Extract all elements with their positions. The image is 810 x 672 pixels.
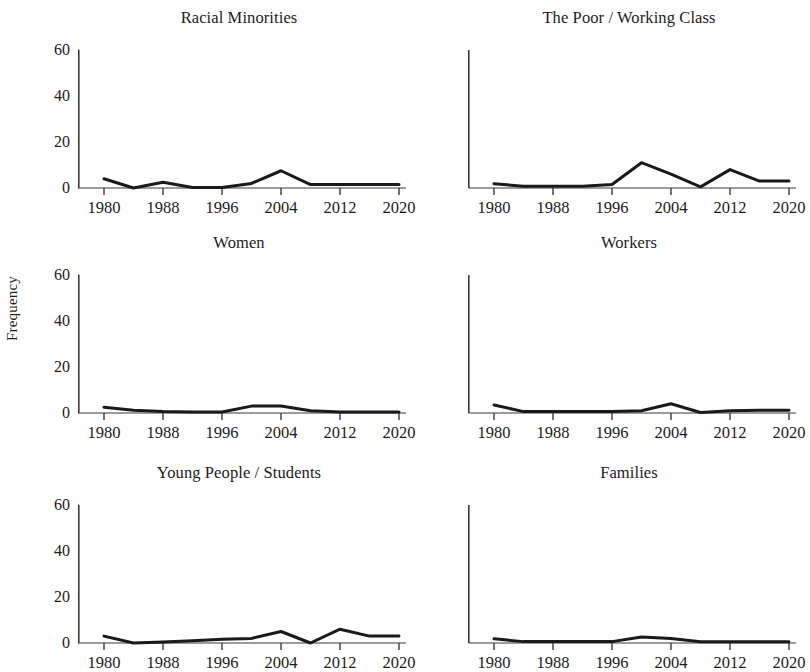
y-tick-label: 40: [26, 543, 70, 559]
x-tick-label: 1996: [192, 425, 252, 442]
x-tick-label: 2012: [700, 200, 760, 217]
data-line: [494, 163, 789, 187]
data-line: [104, 171, 399, 188]
x-tick-label: 2020: [759, 200, 810, 217]
x-tick-label: 1980: [464, 200, 524, 217]
panel-title: Workers: [468, 233, 790, 253]
plot-area: [468, 30, 804, 200]
x-tick-label: 1996: [582, 200, 642, 217]
panel-title: Women: [78, 233, 400, 253]
data-line: [494, 404, 789, 413]
data-line: [494, 637, 789, 642]
panel-2: The Poor / Working Class1980198819962004…: [408, 8, 804, 234]
x-tick-label: 1996: [582, 655, 642, 672]
data-line: [104, 629, 399, 643]
x-tick-label: 1988: [133, 200, 193, 217]
x-tick-label: 1980: [464, 655, 524, 672]
x-tick-label: 1980: [464, 425, 524, 442]
panel-3: Women6040200198019881996200420122020: [18, 233, 414, 459]
x-tick-label: 2012: [310, 655, 370, 672]
y-tick-label: 40: [26, 313, 70, 329]
x-tick-label: 1996: [192, 655, 252, 672]
x-tick-label: 1996: [582, 425, 642, 442]
x-tick-label: 1988: [133, 655, 193, 672]
plot-area: [468, 485, 804, 655]
y-tick-label: 60: [26, 497, 70, 513]
plot-area: [468, 255, 804, 425]
x-tick-label: 2004: [641, 200, 701, 217]
panel-6: Families198019881996200420122020: [408, 463, 804, 672]
x-tick-label: 2004: [641, 425, 701, 442]
x-tick-label: 2012: [310, 425, 370, 442]
data-line: [104, 406, 399, 412]
y-tick-label: 0: [26, 635, 70, 651]
x-tick-label: 2020: [759, 655, 810, 672]
y-tick-label: 20: [26, 589, 70, 605]
panel-title: The Poor / Working Class: [468, 8, 790, 28]
x-tick-label: 1980: [74, 655, 134, 672]
plot-area: [78, 30, 414, 200]
x-tick-label: 2004: [251, 655, 311, 672]
x-tick-label: 1988: [133, 425, 193, 442]
x-tick-label: 2004: [251, 200, 311, 217]
panel-5: Young People / Students60402001980198819…: [18, 463, 414, 672]
y-tick-label: 0: [26, 405, 70, 421]
panel-title: Young People / Students: [78, 463, 400, 483]
panel-1: Racial Minorities60402001980198819962004…: [18, 8, 414, 234]
panel-4: Workers198019881996200420122020: [408, 233, 804, 459]
x-tick-label: 1980: [74, 425, 134, 442]
y-tick-label: 0: [26, 180, 70, 196]
x-tick-label: 2012: [310, 200, 370, 217]
x-tick-label: 1996: [192, 200, 252, 217]
x-tick-label: 2004: [641, 655, 701, 672]
x-tick-label: 2020: [759, 425, 810, 442]
x-tick-label: 1988: [523, 200, 583, 217]
plot-area: [78, 255, 414, 425]
y-tick-label: 40: [26, 88, 70, 104]
x-tick-label: 2004: [251, 425, 311, 442]
plot-area: [78, 485, 414, 655]
x-tick-label: 1988: [523, 425, 583, 442]
x-tick-label: 1988: [523, 655, 583, 672]
x-tick-label: 1980: [74, 200, 134, 217]
panel-title: Racial Minorities: [78, 8, 400, 28]
y-tick-label: 60: [26, 267, 70, 283]
x-tick-label: 2012: [700, 655, 760, 672]
y-tick-label: 60: [26, 42, 70, 58]
panel-title: Families: [468, 463, 790, 483]
y-tick-label: 20: [26, 359, 70, 375]
y-tick-label: 20: [26, 134, 70, 150]
x-tick-label: 2012: [700, 425, 760, 442]
